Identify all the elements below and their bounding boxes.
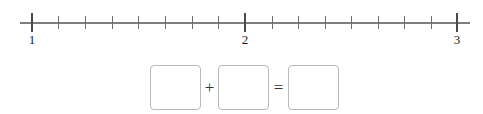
number-line-major-tick-1: [31, 13, 33, 32]
number-line-minor-tick: [325, 16, 326, 29]
number-line-major-tick-3: [456, 13, 458, 32]
number-line-minor-tick: [112, 16, 113, 29]
number-line-minor-tick: [351, 16, 352, 29]
number-line-minor-tick: [58, 16, 59, 29]
number-line-minor-tick: [404, 16, 405, 29]
number-line-minor-tick: [192, 16, 193, 29]
operator-equals: =: [269, 78, 288, 98]
operator-plus: +: [201, 78, 218, 98]
answer-box-sum[interactable]: [288, 65, 339, 110]
number-line-minor-tick: [298, 16, 299, 29]
number-line-label-3: 3: [447, 33, 467, 47]
number-line-major-tick-2: [244, 13, 246, 32]
equation-row: +=: [0, 58, 483, 114]
number-line-label-1: 1: [22, 33, 42, 47]
number-line: 123: [0, 0, 483, 50]
number-line-minor-tick: [165, 16, 166, 29]
number-line-label-2: 2: [235, 33, 255, 47]
number-line-minor-tick: [431, 16, 432, 29]
number-line-minor-tick: [85, 16, 86, 29]
number-line-minor-tick: [138, 16, 139, 29]
answer-box-addend-2[interactable]: [218, 65, 269, 110]
number-line-minor-tick: [218, 16, 219, 29]
number-line-minor-tick: [378, 16, 379, 29]
number-line-minor-tick: [272, 16, 273, 29]
answer-box-addend-1[interactable]: [150, 65, 201, 110]
number-line-worksheet: 123 +=: [0, 0, 483, 114]
